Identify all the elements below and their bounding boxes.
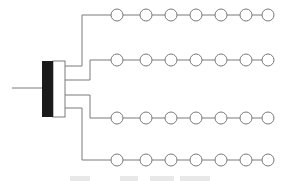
node-circle-icon [111, 54, 123, 66]
node-circle-icon [111, 112, 123, 124]
branch-pipe-2 [65, 60, 111, 80]
node-circle-icon [215, 112, 227, 124]
node-circle-icon [140, 112, 152, 124]
node-circle-icon [262, 112, 274, 124]
node-circle-icon [215, 154, 227, 166]
node-circle-icon [240, 54, 252, 66]
node-row-3 [111, 112, 274, 124]
branch-pipe-4 [65, 108, 111, 160]
node-circle-icon [165, 54, 177, 66]
figure-caption-clipped [180, 176, 210, 181]
branch-pipe-3 [65, 95, 111, 118]
node-circle-icon [140, 54, 152, 66]
node-circle-icon [190, 154, 202, 166]
node-row-4 [111, 154, 274, 166]
node-circle-icon [190, 54, 202, 66]
node-circle-icon [262, 54, 274, 66]
source-block [42, 61, 53, 117]
node-row-1 [111, 9, 274, 21]
source-manifold [42, 61, 65, 117]
node-circle-icon [215, 54, 227, 66]
node-circle-icon [262, 154, 274, 166]
node-circle-icon [190, 9, 202, 21]
node-circle-icon [215, 9, 227, 21]
node-circle-icon [240, 112, 252, 124]
node-circle-icon [190, 112, 202, 124]
branch-pipes [65, 15, 111, 160]
distribution-diagram [0, 0, 284, 181]
figure-caption-clipped [150, 176, 174, 181]
node-rows [111, 9, 274, 166]
node-circle-icon [240, 9, 252, 21]
node-circle-icon [165, 154, 177, 166]
node-circle-icon [165, 112, 177, 124]
node-circle-icon [140, 9, 152, 21]
node-circle-icon [240, 154, 252, 166]
node-row-2 [111, 54, 274, 66]
branch-pipe-1 [65, 15, 111, 66]
node-circle-icon [140, 154, 152, 166]
figure-caption-clipped [120, 176, 138, 181]
node-circle-icon [165, 9, 177, 21]
node-circle-icon [262, 9, 274, 21]
manifold-box [53, 61, 65, 117]
figure-caption-clipped [70, 176, 90, 181]
node-circle-icon [111, 9, 123, 21]
node-circle-icon [111, 154, 123, 166]
